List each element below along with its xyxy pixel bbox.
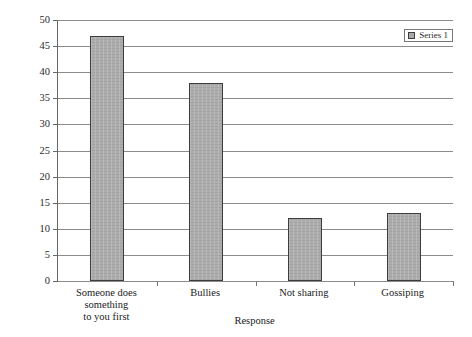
x-tick-0 [157, 281, 158, 286]
legend-swatch-series-1 [408, 32, 415, 39]
bar-3 [387, 213, 421, 281]
y-tick-label-10: 10 [40, 224, 51, 235]
x-category-label-0: Someone does somethingto you first [57, 287, 156, 323]
bar-0 [90, 36, 124, 281]
legend-label-series-1: Series 1 [419, 31, 448, 40]
plot-area: 05101520253035404550 [57, 20, 453, 282]
x-category-label-2: Not sharing [255, 287, 354, 299]
y-tick-45 [53, 46, 58, 47]
y-tick-label-15: 15 [40, 197, 51, 208]
x-tick-2 [354, 281, 355, 286]
y-tick-40 [53, 72, 58, 73]
y-tick-50 [53, 20, 58, 21]
x-tick-3 [453, 281, 454, 286]
x-category-label-1: Bullies [156, 287, 255, 299]
x-category-label-0-line-0: Someone does something [57, 287, 156, 311]
x-tick-1 [256, 281, 257, 286]
bar-2 [288, 218, 322, 281]
y-tick-label-20: 20 [40, 171, 51, 182]
x-category-label-2-line-0: Not sharing [255, 287, 354, 299]
x-category-label-0-line-1: to you first [57, 311, 156, 323]
bar-1 [189, 83, 223, 281]
y-tick-15 [53, 203, 58, 204]
y-tick-5 [53, 255, 58, 256]
y-tick-30 [53, 124, 58, 125]
y-tick-label-45: 45 [40, 41, 51, 52]
y-tick-label-25: 25 [40, 145, 51, 156]
y-tick-label-50: 50 [40, 15, 51, 26]
y-tick-0 [53, 281, 58, 282]
clipped-caption-remnant [0, 0, 472, 8]
y-tick-20 [53, 177, 58, 178]
y-tick-label-40: 40 [40, 67, 51, 78]
y-tick-label-5: 5 [45, 250, 50, 261]
chart-legend: Series 1 [404, 29, 453, 42]
y-tick-10 [53, 229, 58, 230]
gridline-y-50 [58, 20, 453, 21]
y-tick-label-30: 30 [40, 119, 51, 130]
x-category-label-3: Gossiping [353, 287, 452, 299]
y-tick-25 [53, 151, 58, 152]
y-tick-35 [53, 98, 58, 99]
x-category-label-3-line-0: Gossiping [353, 287, 452, 299]
y-tick-label-0: 0 [45, 276, 50, 287]
bar-chart-figure: 05101520253035404550 Series 1 Response S… [0, 0, 472, 337]
x-category-label-1-line-0: Bullies [156, 287, 255, 299]
y-tick-label-35: 35 [40, 93, 51, 104]
